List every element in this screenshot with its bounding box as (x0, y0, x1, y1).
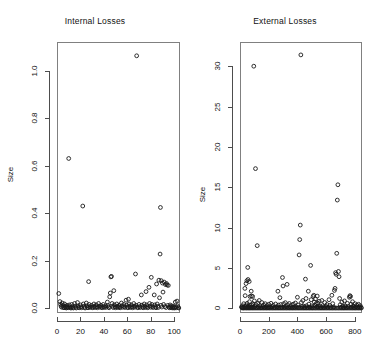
data-point (296, 295, 300, 299)
y-axis-tick (228, 308, 233, 309)
data-point (57, 292, 61, 296)
x-axis-tick (355, 317, 356, 322)
y-axis-tick-label: 0.0 (29, 296, 41, 320)
y-axis-tick (45, 213, 50, 214)
data-point (81, 204, 85, 208)
data-point (127, 297, 131, 301)
x-axis-tick (104, 317, 105, 322)
y-axis-tick (228, 228, 233, 229)
x-axis-tick (269, 317, 270, 322)
x-axis-tick (57, 317, 58, 322)
y-axis-tick (45, 118, 50, 119)
y-axis-tick-label: 15 (212, 175, 224, 199)
y-axis-tick-label: 0.4 (29, 201, 41, 225)
data-point (330, 293, 334, 297)
data-point (285, 282, 289, 286)
x-axis-tick (80, 317, 81, 322)
data-point (152, 293, 156, 297)
x-axis-tick (174, 317, 175, 322)
data-point (298, 238, 302, 242)
data-point (246, 266, 250, 270)
data-point (299, 53, 303, 57)
data-point (338, 297, 342, 301)
data-point (243, 294, 247, 298)
data-point (281, 284, 285, 288)
scatter-figure: Internal Losses Size 0204060801000.00.20… (0, 0, 380, 361)
y-axis-line (49, 71, 50, 309)
x-axis-tick (151, 317, 152, 322)
x-axis-tick (326, 317, 327, 322)
data-point (155, 282, 159, 286)
data-point (108, 291, 112, 295)
data-point (124, 298, 128, 302)
data-point (327, 298, 331, 302)
data-point (304, 277, 308, 281)
panel-internal-losses: Internal Losses Size 0204060801000.00.20… (0, 0, 190, 361)
data-point (249, 289, 253, 293)
data-point (147, 285, 151, 289)
data-point (159, 206, 163, 210)
data-point (87, 280, 91, 284)
x-axis-tick (127, 317, 128, 322)
y-axis-tick (228, 66, 233, 67)
x-axis-tick-label: 800 (335, 327, 375, 336)
data-point (149, 275, 153, 279)
data-point (255, 244, 259, 248)
data-point (309, 264, 313, 268)
y-axis-tick-label: 0.6 (29, 154, 41, 178)
data-point (158, 252, 162, 256)
data-point (108, 295, 112, 299)
data-point (112, 289, 116, 293)
data-point (243, 287, 247, 291)
y-axis-tick-label: 30 (212, 54, 224, 78)
data-point (281, 276, 285, 280)
data-point (337, 275, 341, 279)
data-point (278, 296, 282, 300)
x-axis-tick-label: 100 (154, 327, 194, 336)
data-point (306, 289, 310, 293)
y-axis-tick-label: 0.2 (29, 249, 41, 273)
data-point (134, 272, 138, 276)
y-axis-tick (45, 308, 50, 309)
data-point (158, 296, 162, 300)
y-axis-tick-label: 1.0 (29, 59, 41, 83)
y-axis-tick (228, 107, 233, 108)
y-axis-tick (45, 261, 50, 262)
data-point (335, 251, 339, 255)
data-point (161, 290, 165, 294)
y-axis-tick-label: 20 (212, 135, 224, 159)
y-axis-tick-label: 0 (212, 296, 224, 320)
y-axis-tick (228, 268, 233, 269)
x-axis-tick (240, 317, 241, 322)
data-point (67, 157, 71, 161)
data-point (276, 289, 280, 293)
data-point (297, 253, 301, 257)
y-axis-tick-label: 5 (212, 256, 224, 280)
y-axis-tick-label: 10 (212, 216, 224, 240)
y-axis-tick-label: 25 (212, 95, 224, 119)
data-point (252, 64, 256, 68)
data-point (304, 297, 308, 301)
data-point (254, 167, 258, 171)
panel-external-losses: External Losses Size 0200400600800051015… (190, 0, 380, 361)
x-axis-line (57, 321, 174, 322)
data-point (336, 183, 340, 187)
y-axis-tick-label: 0.8 (29, 106, 41, 130)
data-point (335, 198, 339, 202)
data-point (144, 290, 148, 294)
data-point (298, 223, 302, 227)
x-axis-tick (297, 317, 298, 322)
data-point (139, 293, 143, 297)
y-axis-tick (45, 71, 50, 72)
data-point (135, 54, 139, 58)
y-axis-tick (228, 147, 233, 148)
y-axis-tick (45, 166, 50, 167)
y-axis-tick (228, 187, 233, 188)
